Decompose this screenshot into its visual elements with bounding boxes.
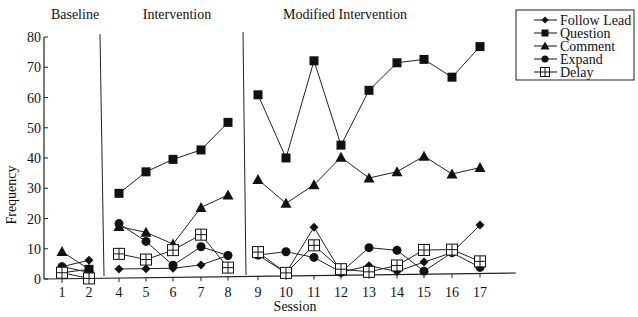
y-tick-label: 60 [27, 91, 41, 106]
legend: Follow LeadQuestionCommentExpandDelay [516, 10, 634, 80]
x-tick-label: 16 [445, 285, 459, 300]
x-tick-label: 1 [59, 285, 66, 300]
y-tick-label: 10 [27, 242, 41, 257]
y-tick-label: 20 [27, 212, 41, 227]
x-tick-label: 2 [86, 285, 93, 300]
x-tick-label: 15 [417, 285, 431, 300]
phase-label: Modified Intervention [283, 7, 407, 22]
x-tick-label: 17 [473, 285, 487, 300]
y-tick-label: 70 [27, 60, 41, 75]
x-tick-label: 5 [143, 285, 150, 300]
y-tick-label: 80 [27, 30, 41, 45]
x-tick-label: 11 [307, 285, 320, 300]
x-tick-label: 14 [390, 285, 404, 300]
x-tick-label: 7 [198, 285, 205, 300]
single-subject-line-chart: 0102030405060708012456789101112131415161… [0, 0, 638, 317]
legend-label: Delay [560, 65, 593, 80]
x-tick-label: 6 [170, 285, 177, 300]
x-tick-label: 10 [279, 285, 293, 300]
y-axis-label: Frequency [4, 165, 19, 224]
y-tick-label: 50 [27, 121, 41, 136]
phase-label: Baseline [51, 7, 99, 22]
x-tick-label: 12 [334, 285, 348, 300]
x-tick-label: 13 [362, 285, 376, 300]
phase-label: Intervention [143, 7, 211, 22]
phase-labels: BaselineInterventionModified Interventio… [51, 7, 407, 22]
y-tick-label: 40 [27, 151, 41, 166]
x-tick-label: 8 [225, 285, 232, 300]
data-series [57, 42, 486, 284]
x-axis-label: Session [274, 299, 317, 314]
x-tick-label: 4 [116, 285, 123, 300]
x-tick-label: 9 [255, 285, 262, 300]
y-tick-label: 30 [27, 181, 41, 196]
y-tick-label: 0 [34, 272, 41, 287]
